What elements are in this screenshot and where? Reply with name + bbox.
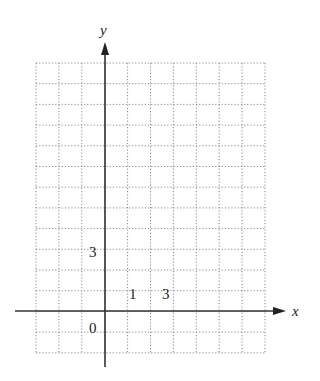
coordinate-grid-diagram: x y 3 1 3 0: [0, 0, 320, 381]
x-axis-arrow-icon: [273, 307, 286, 315]
tick-label-x-1: 1: [129, 286, 137, 302]
tick-label-y-3: 3: [89, 244, 97, 260]
origin-label: 0: [89, 320, 97, 336]
tick-label-x-3: 3: [162, 286, 170, 302]
dotted-grid: [36, 63, 265, 353]
y-axis-label: y: [98, 22, 107, 38]
y-axis-arrow-icon: [101, 42, 109, 55]
x-axis-label: x: [291, 303, 299, 319]
